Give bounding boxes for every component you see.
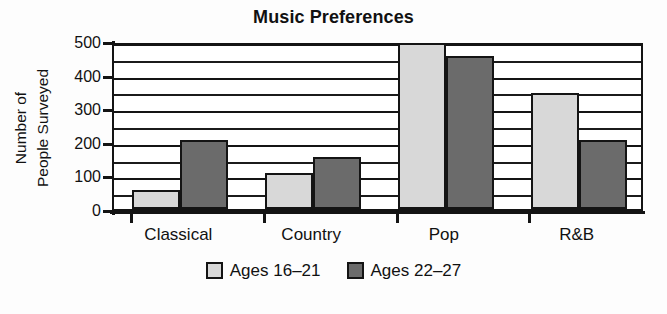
x-tick-mark-1 — [263, 212, 266, 223]
chart-figure: Music Preferences Number of People Surve… — [0, 0, 667, 314]
y-tick-label-0: 0 — [55, 203, 101, 219]
x-axis-line — [110, 211, 645, 214]
legend-label-1: Ages 22–27 — [371, 262, 462, 279]
legend-label-0: Ages 16–21 — [230, 262, 321, 279]
legend-swatch-icon-1 — [347, 262, 364, 279]
y-tick-label-300: 300 — [55, 102, 101, 118]
y-tick-mark-400 — [103, 76, 114, 79]
y-tick-mark-0 — [103, 210, 114, 213]
bar-country-series-0 — [265, 173, 313, 209]
bar-pop-series-0 — [398, 43, 446, 209]
x-tick-label-classical: Classical — [144, 226, 212, 243]
y-tick-label-200: 200 — [55, 136, 101, 152]
y-tick-mark-500 — [103, 42, 114, 45]
bar-classical-series-0 — [132, 190, 180, 209]
x-tick-mark-2 — [396, 212, 399, 223]
gridline-450 — [114, 61, 641, 63]
bar-r-b-series-0 — [531, 93, 579, 209]
y-axis-title: Number of People Surveyed — [8, 38, 56, 218]
y-tick-label-500: 500 — [55, 35, 101, 51]
gridline-500 — [114, 44, 641, 46]
y-tick-mark-100 — [103, 176, 114, 179]
plot-area — [112, 43, 643, 211]
y-tick-label-400: 400 — [55, 69, 101, 85]
gridline-400 — [114, 78, 641, 80]
bar-country-series-1 — [313, 157, 361, 209]
x-tick-mark-0 — [130, 212, 133, 223]
bar-classical-series-1 — [180, 140, 228, 209]
y-tick-mark-300 — [103, 109, 114, 112]
x-tick-label-pop: Pop — [429, 226, 459, 243]
y-tick-mark-200 — [103, 143, 114, 146]
y-tick-label-100: 100 — [55, 169, 101, 185]
chart-legend: Ages 16–21Ages 22–27 — [0, 262, 667, 279]
legend-swatch-icon-0 — [206, 262, 223, 279]
bar-pop-series-1 — [446, 56, 494, 209]
bar-r-b-series-1 — [579, 140, 627, 209]
legend-entry-0[interactable]: Ages 16–21 — [206, 262, 321, 279]
y-axis-title-line-2: People Surveyed — [35, 69, 51, 187]
y-axis-title-line-1: Number of — [13, 92, 29, 164]
x-tick-label-country: Country — [281, 226, 341, 243]
x-tick-label-r-b: R&B — [559, 226, 594, 243]
legend-entry-1[interactable]: Ages 22–27 — [347, 262, 462, 279]
x-tick-mark-3 — [528, 212, 531, 223]
